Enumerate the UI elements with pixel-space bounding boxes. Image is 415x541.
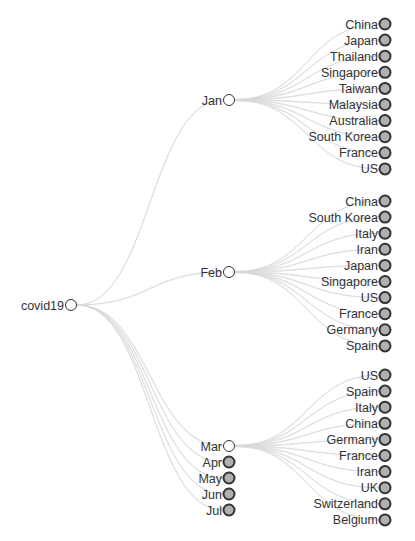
- node-country-germany[interactable]: Germany: [327, 323, 391, 337]
- node-label: Taiwan: [339, 82, 378, 96]
- node-month-jul[interactable]: Jul: [206, 504, 234, 518]
- node-month-feb[interactable]: Feb: [200, 266, 234, 280]
- node-country-france[interactable]: France: [339, 449, 390, 463]
- collapsed-node-icon[interactable]: [380, 51, 391, 62]
- collapsed-node-icon[interactable]: [380, 418, 391, 429]
- node-label: covid19: [21, 299, 64, 313]
- collapsed-node-icon[interactable]: [380, 308, 391, 319]
- node-country-us[interactable]: US: [361, 162, 391, 176]
- collapsed-node-icon[interactable]: [380, 340, 391, 351]
- collapsed-node-icon[interactable]: [380, 83, 391, 94]
- node-label: US: [361, 291, 378, 305]
- node-country-germany[interactable]: Germany: [327, 433, 391, 447]
- node-country-us[interactable]: US: [361, 369, 391, 383]
- node-country-japan[interactable]: Japan: [344, 259, 391, 273]
- node-country-uk[interactable]: UK: [361, 481, 391, 495]
- node-country-italy[interactable]: Italy: [355, 401, 390, 415]
- collapsed-node-icon[interactable]: [380, 386, 391, 397]
- node-country-spain[interactable]: Spain: [346, 339, 390, 353]
- node-label: Mar: [200, 440, 222, 454]
- node-label: Iran: [356, 465, 378, 479]
- node-country-china[interactable]: China: [345, 18, 390, 32]
- collapsed-node-icon[interactable]: [380, 450, 391, 461]
- collapsed-node-icon[interactable]: [380, 99, 391, 110]
- expanded-node-icon[interactable]: [66, 300, 77, 311]
- node-month-mar[interactable]: Mar: [200, 440, 234, 454]
- collapsed-node-icon[interactable]: [380, 115, 391, 126]
- collapsed-node-icon[interactable]: [380, 67, 391, 78]
- collapsed-node-icon[interactable]: [380, 212, 391, 223]
- node-country-iran[interactable]: Iran: [356, 465, 390, 479]
- node-label: Germany: [327, 323, 379, 337]
- node-label: Spain: [346, 385, 378, 399]
- node-label: Jun: [202, 488, 222, 502]
- node-label: Malaysia: [329, 98, 378, 112]
- collapsed-node-icon[interactable]: [224, 457, 235, 468]
- collapsed-node-icon[interactable]: [224, 505, 235, 516]
- node-label: France: [339, 307, 378, 321]
- node-month-jan[interactable]: Jan: [202, 94, 235, 108]
- node-label: Singapore: [321, 66, 378, 80]
- node-country-south-korea[interactable]: South Korea: [309, 130, 391, 144]
- node-country-china[interactable]: China: [345, 417, 390, 431]
- node-country-belgium[interactable]: Belgium: [333, 513, 391, 527]
- node-month-may[interactable]: May: [198, 472, 234, 486]
- node-country-malaysia[interactable]: Malaysia: [329, 98, 391, 112]
- collapsed-node-icon[interactable]: [380, 402, 391, 413]
- collapsed-node-icon[interactable]: [380, 370, 391, 381]
- node-label: Thailand: [330, 50, 378, 64]
- node-country-china[interactable]: China: [345, 195, 390, 209]
- collapsed-node-icon[interactable]: [380, 434, 391, 445]
- collapsed-node-icon[interactable]: [380, 276, 391, 287]
- expanded-node-icon[interactable]: [224, 267, 235, 278]
- collapsed-node-icon[interactable]: [380, 498, 391, 509]
- collapsed-node-icon[interactable]: [380, 466, 391, 477]
- node-country-italy[interactable]: Italy: [355, 227, 390, 241]
- collapsed-node-icon[interactable]: [380, 292, 391, 303]
- collapsed-node-icon[interactable]: [380, 131, 391, 142]
- collapsed-node-icon[interactable]: [224, 473, 235, 484]
- collapsed-node-icon[interactable]: [380, 482, 391, 493]
- node-label: Italy: [355, 401, 379, 415]
- node-label: Iran: [356, 243, 378, 257]
- node-label: Feb: [200, 266, 222, 280]
- node-country-us[interactable]: US: [361, 291, 391, 305]
- node-country-france[interactable]: France: [339, 307, 390, 321]
- tree-link: [77, 305, 223, 495]
- node-country-australia[interactable]: Australia: [329, 114, 390, 128]
- node-month-jun[interactable]: Jun: [202, 488, 235, 502]
- node-country-taiwan[interactable]: Taiwan: [339, 82, 390, 96]
- tree-link: [77, 305, 223, 447]
- node-label: China: [345, 417, 378, 431]
- collapsed-node-icon[interactable]: [380, 260, 391, 271]
- node-country-japan[interactable]: Japan: [344, 34, 391, 48]
- node-month-apr[interactable]: Apr: [203, 456, 235, 470]
- collapsed-node-icon[interactable]: [380, 514, 391, 525]
- node-country-france[interactable]: France: [339, 146, 390, 160]
- node-country-singapore[interactable]: Singapore: [321, 275, 391, 289]
- node-label: Jul: [206, 504, 222, 518]
- node-label: Italy: [355, 227, 379, 241]
- collapsed-node-icon[interactable]: [380, 324, 391, 335]
- expanded-node-icon[interactable]: [224, 95, 235, 106]
- collapsed-node-icon[interactable]: [380, 196, 391, 207]
- node-label: France: [339, 146, 378, 160]
- collapsed-node-icon[interactable]: [380, 163, 391, 174]
- node-country-spain[interactable]: Spain: [346, 385, 390, 399]
- node-country-singapore[interactable]: Singapore: [321, 66, 391, 80]
- expanded-node-icon[interactable]: [224, 441, 235, 452]
- collapsed-node-icon[interactable]: [224, 489, 235, 500]
- collapsed-node-icon[interactable]: [380, 244, 391, 255]
- collapsed-node-icon[interactable]: [380, 35, 391, 46]
- collapsed-node-icon[interactable]: [380, 19, 391, 30]
- node-country-switzerland[interactable]: Switzerland: [313, 497, 390, 511]
- node-covid19[interactable]: covid19: [21, 299, 77, 313]
- node-label: Spain: [346, 339, 378, 353]
- node-label: UK: [361, 481, 379, 495]
- node-label: Jan: [202, 94, 222, 108]
- collapsed-node-icon[interactable]: [380, 228, 391, 239]
- node-country-thailand[interactable]: Thailand: [330, 50, 390, 64]
- node-label: Australia: [329, 114, 378, 128]
- node-country-iran[interactable]: Iran: [356, 243, 390, 257]
- collapsed-node-icon[interactable]: [380, 147, 391, 158]
